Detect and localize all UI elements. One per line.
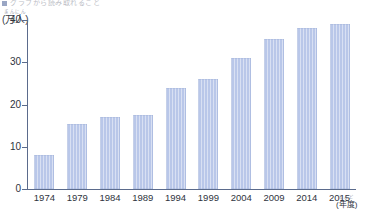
x-axis-tick-label: 1974	[28, 192, 61, 204]
y-axis-tick	[22, 105, 28, 106]
x-axis-tick-label: 1989	[126, 192, 159, 204]
bar-slot	[225, 20, 258, 189]
bar-slot	[61, 20, 94, 189]
bar	[264, 39, 284, 189]
bar	[198, 79, 218, 189]
y-axis-tick	[22, 20, 28, 21]
bar	[34, 155, 54, 189]
bar	[100, 117, 120, 189]
x-axis-tick-label: 2009	[258, 192, 291, 204]
x-axis-unit-text: (年度)	[336, 200, 357, 209]
chart-title-text: グラフから読み取れること	[10, 0, 100, 6]
bar	[297, 28, 317, 189]
bar-slot	[258, 20, 291, 189]
x-axis-tick-label: 1984	[94, 192, 127, 204]
x-axis-unit-furigana: ねんど	[339, 196, 357, 200]
x-axis-tick-label: 1999	[192, 192, 225, 204]
x-axis-line	[27, 189, 356, 190]
y-axis-tick-label: 0	[1, 184, 21, 194]
bar-slot	[159, 20, 192, 189]
x-axis-tick-label: 2014	[290, 192, 323, 204]
y-axis-tick	[22, 62, 28, 63]
bar-slot	[192, 20, 225, 189]
x-axis-tick-label: 1994	[159, 192, 192, 204]
bar-slot	[28, 20, 61, 189]
y-axis-tick-label: 10	[1, 142, 21, 152]
bar	[231, 58, 251, 189]
y-axis-tick-label: 20	[1, 100, 21, 110]
bar-slot	[126, 20, 159, 189]
bar-slot	[94, 20, 127, 189]
bar-series	[28, 20, 356, 189]
bar	[166, 88, 186, 189]
bar	[133, 115, 153, 189]
chart-title: グラフから読み取れること	[0, 0, 369, 6]
y-axis-tick	[22, 147, 28, 148]
x-axis-tick-label: 2004	[225, 192, 258, 204]
bar	[67, 124, 87, 189]
y-axis-tick	[22, 189, 28, 190]
bar-chart: グラフから読み取れること まんにん (万人) 010203040 1974197…	[0, 0, 369, 222]
x-axis-labels: 1974197919841989199419992004200920142015	[28, 192, 356, 206]
square-marker-icon	[2, 1, 7, 6]
bar-slot	[290, 20, 323, 189]
x-axis-unit-label: ねんど (年度)	[336, 196, 357, 209]
y-axis-tick-label: 30	[1, 57, 21, 67]
bar	[330, 24, 350, 189]
x-axis-tick-label: 1979	[61, 192, 94, 204]
y-axis-tick-label: 40	[1, 15, 21, 25]
bar-slot	[323, 20, 356, 189]
